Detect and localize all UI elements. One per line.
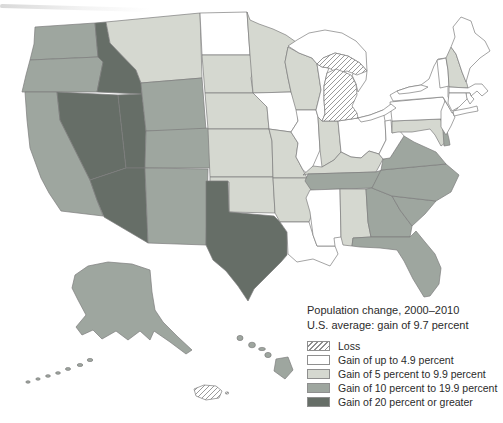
aleutian-island	[26, 381, 30, 383]
legend-label: Loss	[338, 340, 360, 352]
legend-label: Gain of 20 percent or greater	[338, 396, 473, 408]
loss-swatch	[307, 341, 330, 351]
state-hawaii-big-island	[274, 357, 293, 379]
map-legend: Population change, 2000–2010 U.S. averag…	[307, 303, 497, 409]
gain-20-swatch	[307, 397, 330, 407]
aleutian-island	[36, 378, 40, 380]
population-change-map-figure: Population change, 2000–2010 U.S. averag…	[0, 0, 503, 423]
gain-10-19-swatch	[307, 383, 330, 393]
gain-5-9-swatch	[307, 369, 330, 379]
state-colorado	[145, 128, 214, 168]
legend-row-loss: Loss	[307, 339, 497, 353]
state-hawaii-oahu	[249, 342, 256, 348]
aleutian-island	[77, 364, 83, 367]
legend-label: Gain of 5 percent to 9.9 percent	[338, 368, 486, 380]
state-hawaii-maui	[265, 352, 271, 357]
legend-label: Gain of up to 4.9 percent	[338, 354, 454, 366]
state-florida	[352, 231, 441, 297]
aleutian-island	[46, 375, 51, 378]
legend-row-gain-5-9: Gain of 5 percent to 9.9 percent	[307, 367, 497, 381]
territory-puerto-rico	[194, 385, 222, 400]
state-new-mexico	[145, 168, 208, 245]
state-wyoming	[141, 78, 206, 131]
state-washington	[30, 23, 98, 60]
legend-row-gain-20: Gain of 20 percent or greater	[307, 395, 497, 409]
legend-label: Gain of 10 percent to 19.9 percent	[338, 382, 497, 394]
aleutian-island	[65, 368, 70, 371]
aleutian-island	[87, 358, 93, 361]
state-south-dakota	[202, 55, 255, 93]
aleutian-island	[56, 372, 61, 375]
state-north-dakota	[200, 12, 250, 55]
state-hawaii-molokai	[259, 347, 266, 350]
state-alaska	[72, 262, 192, 354]
state-hawaii-kauai	[237, 335, 243, 340]
gain-0-4-swatch	[307, 355, 330, 365]
legend-title: Population change, 2000–2010	[307, 303, 497, 318]
legend-row-gain-0-4: Gain of up to 4.9 percent	[307, 353, 497, 367]
puerto-rico-islet	[225, 392, 229, 394]
legend-subtitle: U.S. average: gain of 9.7 percent	[307, 318, 497, 333]
state-oregon	[22, 57, 103, 92]
state-kansas	[208, 129, 273, 177]
legend-row-gain-10-19: Gain of 10 percent to 19.9 percent	[307, 381, 497, 395]
legend-rows: Loss Gain of up to 4.9 percent Gain of 5…	[307, 339, 497, 409]
